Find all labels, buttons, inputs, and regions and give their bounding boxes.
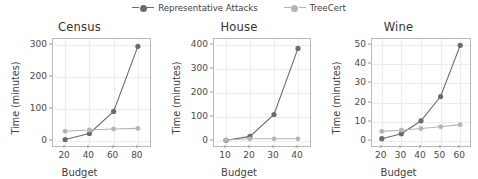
- legend-line-right: [147, 7, 154, 8]
- x-tick-label: 40: [414, 150, 425, 160]
- y-tick-mark: [368, 43, 371, 44]
- x-tick-mark: [273, 145, 274, 148]
- legend: Representative Attacks TreeCert: [0, 0, 478, 16]
- x-axis-label-wine: Budget: [319, 167, 478, 178]
- plot-area-census: [52, 38, 151, 147]
- series-line-representative-attacks: [226, 48, 298, 140]
- subplot-wine: Wine Time (minutes) Budget 0102030405020…: [319, 16, 478, 179]
- x-axis-label-house: Budget: [159, 167, 319, 178]
- y-axis-label-wine: Time (minutes): [331, 52, 342, 144]
- y-tick-mark: [49, 43, 52, 44]
- data-point: [111, 127, 116, 132]
- y-tick-label: 50: [355, 39, 366, 49]
- x-tick-mark: [112, 145, 113, 148]
- data-point: [418, 118, 423, 123]
- data-point: [438, 124, 443, 129]
- data-point: [248, 136, 253, 141]
- data-point: [379, 136, 384, 141]
- y-tick-mark: [368, 139, 371, 140]
- x-tick-label: 50: [434, 150, 445, 160]
- legend-dot: [291, 5, 298, 12]
- data-point: [419, 126, 424, 131]
- data-point: [135, 126, 140, 131]
- x-tick-mark: [400, 145, 401, 148]
- x-tick-label: 40: [291, 150, 302, 160]
- series-line-representative-attacks: [382, 45, 460, 138]
- y-tick-mark: [368, 101, 371, 102]
- x-tick-mark: [297, 145, 298, 148]
- legend-marker-treecert: [284, 3, 306, 13]
- y-tick-label: 0: [360, 135, 366, 145]
- y-tick-mark: [210, 139, 213, 140]
- x-tick-label: 20: [243, 150, 254, 160]
- x-tick-mark: [88, 145, 89, 148]
- legend-label-treecert: TreeCert: [310, 3, 346, 13]
- y-tick-label: 100: [191, 111, 208, 121]
- data-point: [63, 129, 68, 134]
- data-point: [272, 136, 277, 141]
- x-tick-mark: [225, 145, 226, 148]
- x-axis-label-census: Budget: [0, 167, 159, 178]
- y-tick-mark: [49, 75, 52, 76]
- legend-line-left: [132, 7, 139, 8]
- y-tick-mark: [210, 91, 213, 92]
- y-tick-label: 300: [30, 39, 47, 49]
- series-layer: [372, 39, 470, 146]
- y-tick-label: 100: [30, 103, 47, 113]
- data-point: [87, 128, 92, 133]
- x-tick-mark: [439, 145, 440, 148]
- legend-label-representative-attacks: Representative Attacks: [158, 3, 258, 13]
- x-tick-mark: [459, 145, 460, 148]
- data-point: [224, 138, 229, 143]
- x-tick-label: 30: [395, 150, 406, 160]
- series-line-treecert: [65, 128, 138, 131]
- x-tick-label: 20: [375, 150, 386, 160]
- y-tick-label: 0: [41, 135, 47, 145]
- x-tick-label: 20: [58, 150, 69, 160]
- series-line-representative-attacks: [65, 46, 138, 139]
- data-point: [399, 128, 404, 133]
- y-tick-mark: [49, 107, 52, 108]
- y-tick-label: 40: [355, 58, 366, 68]
- data-point: [379, 129, 384, 134]
- y-axis-label-census: Time (minutes): [10, 52, 21, 144]
- subplot-title-census: Census: [0, 20, 159, 34]
- x-tick-mark: [380, 145, 381, 148]
- legend-dot: [140, 5, 147, 12]
- y-tick-mark: [49, 139, 52, 140]
- y-tick-label: 200: [30, 71, 47, 81]
- legend-entry-treecert[interactable]: TreeCert: [284, 3, 346, 13]
- figure: Representative Attacks TreeCert Census T…: [0, 0, 478, 179]
- y-tick-label: 200: [191, 87, 208, 97]
- data-point: [271, 112, 276, 117]
- data-point: [296, 136, 301, 141]
- plot-area-house: [213, 38, 311, 147]
- data-point: [438, 94, 443, 99]
- legend-marker-representative-attacks: [132, 3, 154, 13]
- subplot-title-wine: Wine: [319, 20, 478, 34]
- legend-entry-representative-attacks[interactable]: Representative Attacks: [132, 3, 258, 13]
- x-tick-mark: [136, 145, 137, 148]
- x-tick-label: 80: [131, 150, 142, 160]
- data-point: [295, 46, 300, 51]
- x-tick-mark: [64, 145, 65, 148]
- x-tick-mark: [420, 145, 421, 148]
- legend-line-left: [284, 7, 291, 8]
- y-tick-label: 400: [191, 39, 208, 49]
- series-layer: [53, 39, 150, 146]
- series-layer: [214, 39, 310, 146]
- data-point: [458, 43, 463, 48]
- y-axis-label-house: Time (minutes): [171, 52, 182, 144]
- plot-area-wine: [371, 38, 471, 147]
- data-point: [135, 44, 140, 49]
- y-tick-mark: [368, 63, 371, 64]
- y-tick-label: 20: [355, 97, 366, 107]
- x-tick-label: 30: [267, 150, 278, 160]
- series-line-treecert: [226, 139, 298, 140]
- x-tick-label: 60: [453, 150, 464, 160]
- data-point: [111, 109, 116, 114]
- x-tick-label: 40: [83, 150, 94, 160]
- y-tick-label: 300: [191, 63, 208, 73]
- x-tick-label: 60: [107, 150, 118, 160]
- y-tick-mark: [210, 67, 213, 68]
